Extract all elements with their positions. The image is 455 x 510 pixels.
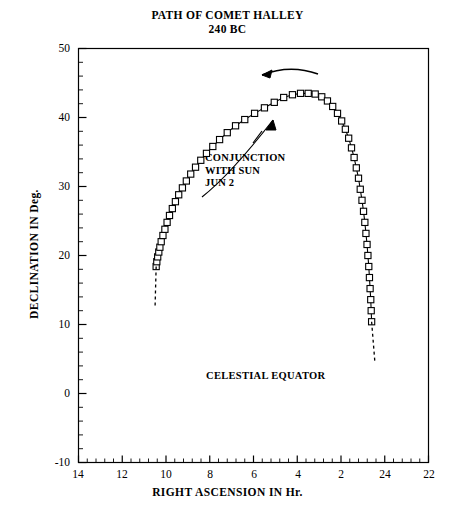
direction-of-motion-arrow: [262, 69, 318, 78]
data-point-marker: [166, 212, 172, 218]
data-point-marker: [353, 165, 359, 171]
data-point-marker: [198, 157, 204, 163]
data-point-marker: [368, 297, 374, 303]
data-point-marker: [271, 99, 277, 105]
data-point-marker: [251, 110, 257, 116]
data-point-marker: [360, 208, 366, 214]
conjunction-leader-stub: [253, 131, 262, 143]
data-point-marker: [164, 219, 170, 225]
data-point-marker: [289, 92, 295, 98]
data-point-marker: [365, 252, 371, 258]
data-point-marker: [179, 185, 185, 191]
data-point-marker: [367, 286, 373, 292]
data-point-marker: [176, 192, 182, 198]
data-point-marker: [281, 94, 287, 100]
data-point-marker: [351, 154, 357, 160]
data-point-marker: [210, 143, 216, 149]
data-point-marker: [172, 199, 178, 205]
data-point-marker: [224, 130, 230, 136]
data-point-marker: [355, 175, 361, 181]
data-point-marker: [160, 232, 166, 238]
data-point-marker: [203, 150, 209, 156]
chart-root: PATH OF COMET HALLEY 240 BC DECLINATION …: [0, 0, 455, 510]
conjunction-leader-line: [202, 120, 276, 197]
data-point-marker: [188, 171, 194, 177]
data-point-marker: [362, 219, 368, 225]
data-point-marker: [368, 308, 374, 314]
data-point-marker: [192, 164, 198, 170]
data-point-marker: [346, 135, 352, 141]
data-point-marker: [162, 226, 168, 232]
data-point-marker: [183, 178, 189, 184]
data-point-marker: [339, 118, 345, 124]
data-point-marker: [366, 274, 372, 280]
data-point-marker: [359, 197, 365, 203]
data-point-marker: [305, 90, 311, 96]
data-point-marker: [334, 110, 340, 116]
chart-canvas: [0, 0, 455, 510]
data-point-marker: [364, 241, 370, 247]
data-point-marker: [232, 123, 238, 129]
data-point-marker: [158, 239, 164, 245]
data-point-marker: [348, 145, 354, 151]
data-point-marker: [169, 205, 175, 211]
data-point-marker: [216, 136, 222, 142]
data-point-marker: [363, 230, 369, 236]
data-point-marker: [357, 186, 363, 192]
data-point-marker: [330, 103, 336, 109]
data-point-marker: [261, 105, 267, 111]
data-point-marker: [366, 263, 372, 269]
data-point-marker: [297, 90, 303, 96]
data-point-marker: [342, 126, 348, 132]
data-point-marker: [242, 116, 248, 122]
data-point-marker: [312, 91, 318, 97]
